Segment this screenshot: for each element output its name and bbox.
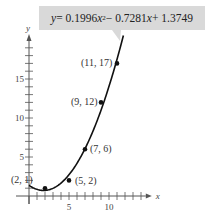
quadratic-fit-chart: xy51051015 (2, 1)(5, 2)(7, 6)(9, 12)(11,… <box>0 0 213 220</box>
data-points: (2, 1)(5, 2)(7, 6)(9, 12)(11, 17) <box>11 57 119 190</box>
y-tick-label: 5 <box>20 152 25 162</box>
data-point-label: (11, 17) <box>81 57 112 69</box>
equation-coef-c: + 1.3749 <box>152 12 193 24</box>
equation-coef-a: = 0.1996 <box>56 12 97 24</box>
x-tick-label: 10 <box>105 202 115 212</box>
equation-coef-b: − 0.7281 <box>106 12 147 24</box>
data-point <box>99 100 104 105</box>
data-point-label: (5, 2) <box>75 175 97 187</box>
data-point-label: (7, 6) <box>90 143 112 155</box>
equation-callout: y = 0.1996 x 2 − 0.7281 x + 1.3749 <box>39 6 205 30</box>
x-tick-label: 5 <box>67 202 72 212</box>
data-point <box>43 186 48 191</box>
y-axis-arrow-icon <box>27 34 32 41</box>
y-tick-label: 10 <box>15 113 25 123</box>
y-tick-label: 15 <box>15 74 25 84</box>
x-axis-label: x <box>155 191 160 201</box>
data-point-label: (2, 1) <box>11 174 33 186</box>
data-point <box>67 178 72 183</box>
data-point <box>115 61 120 66</box>
callout-pointer <box>112 30 121 41</box>
data-point <box>83 147 88 152</box>
data-point-label: (9, 12) <box>71 96 98 108</box>
x-axis-arrow-icon <box>146 194 152 199</box>
y-axis-label: y <box>25 23 30 33</box>
